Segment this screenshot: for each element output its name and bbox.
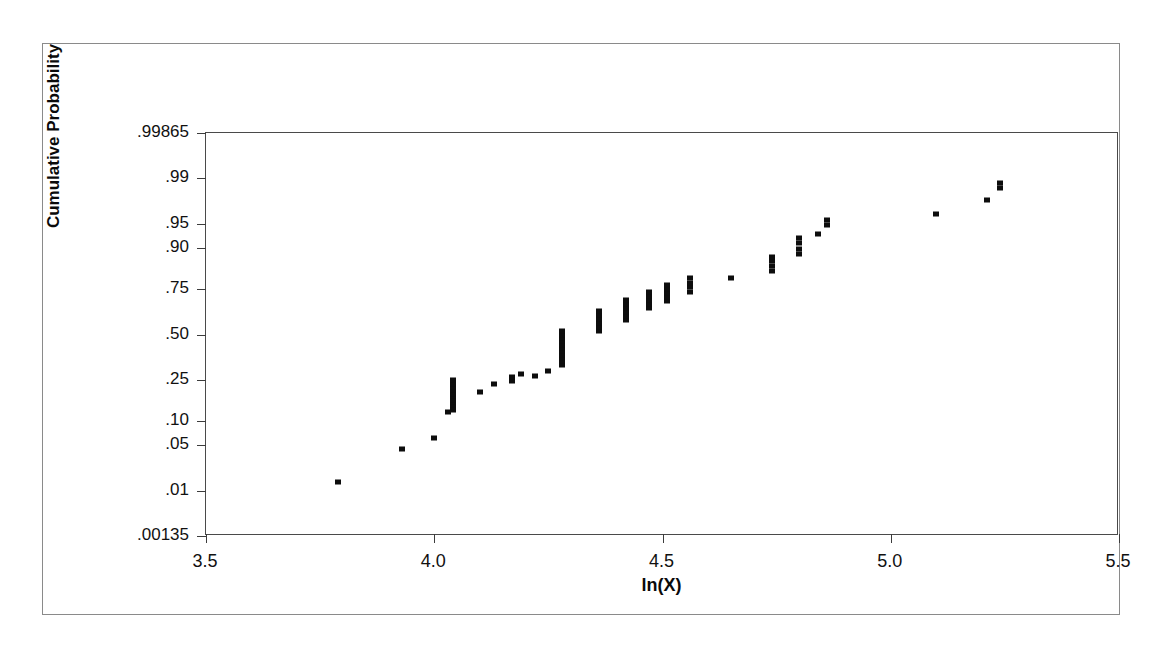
x-axis-tick: [1119, 534, 1120, 543]
scatter-point: [518, 372, 524, 377]
y-axis-tick: [197, 421, 206, 422]
x-axis-tick-label: 3.5: [192, 551, 217, 572]
scatter-point: [687, 276, 693, 281]
y-axis-tick-label: .25: [0, 369, 189, 389]
scatter-point: [933, 211, 939, 216]
scatter-point: [769, 268, 775, 273]
x-axis-tick-label: 5.0: [877, 551, 902, 572]
x-axis-tick: [891, 534, 892, 543]
y-axis-tick: [197, 335, 206, 336]
scatter-point: [532, 374, 538, 379]
scatter-point: [646, 289, 652, 294]
scatter-point: [545, 369, 551, 374]
x-axis-tick: [206, 534, 207, 543]
scatter-point: [815, 231, 821, 236]
scatter-point: [687, 280, 693, 285]
scatter-point: [997, 181, 1003, 186]
scatter-point: [796, 241, 802, 246]
scatter-point: [399, 446, 405, 451]
x-axis-tick-label: 4.5: [649, 551, 674, 572]
scatter-point: [728, 276, 734, 281]
scatter-point: [431, 435, 437, 440]
y-axis-tick: [197, 491, 206, 492]
scatter-point: [491, 382, 497, 387]
plot-frame: [205, 132, 1118, 535]
y-axis-tick-label: .00135: [0, 525, 189, 545]
scatter-point: [687, 285, 693, 290]
x-axis-tick-label: 4.0: [421, 551, 446, 572]
y-axis-tick-label: .50: [0, 324, 189, 344]
y-axis-tick: [197, 536, 206, 537]
scatter-points-layer: [206, 133, 1117, 534]
x-axis-tick: [663, 534, 664, 543]
scatter-point: [509, 375, 515, 380]
y-axis-tick-label: .10: [0, 410, 189, 430]
x-axis-tick: [434, 534, 435, 543]
scatter-point: [623, 297, 629, 302]
scatter-point: [769, 254, 775, 259]
scatter-point: [796, 246, 802, 251]
scatter-point: [596, 308, 602, 313]
y-axis-tick: [197, 133, 206, 134]
scatter-point: [769, 263, 775, 268]
scatter-point: [335, 479, 341, 484]
scatter-point: [824, 223, 830, 228]
scatter-point: [796, 251, 802, 256]
y-axis-tick-label: .05: [0, 434, 189, 454]
y-axis-tick: [197, 289, 206, 290]
scatter-point: [769, 259, 775, 264]
scatter-point: [477, 389, 483, 394]
y-axis-tick-label: .01: [0, 480, 189, 500]
y-axis-tick-label: .90: [0, 237, 189, 257]
scatter-point: [997, 186, 1003, 191]
y-axis-tick-label: .99: [0, 167, 189, 187]
y-axis-tick: [197, 248, 206, 249]
scatter-point: [664, 282, 670, 287]
scatter-point: [824, 217, 830, 222]
y-axis-tick: [197, 380, 206, 381]
scatter-point: [984, 198, 990, 203]
y-axis-tick: [197, 445, 206, 446]
y-axis-tick-label: .95: [0, 213, 189, 233]
y-axis-tick-label: .99865: [0, 122, 189, 142]
figure-canvas: Cumulative Probability .99865.99.95.90.7…: [0, 0, 1160, 653]
scatter-point: [450, 378, 456, 383]
scatter-point: [559, 329, 565, 334]
scatter-point: [796, 235, 802, 240]
y-axis-tick: [197, 224, 206, 225]
scatter-point: [687, 290, 693, 295]
y-axis-tick-label: .75: [0, 278, 189, 298]
x-axis-tick-label: 5.5: [1105, 551, 1130, 572]
x-axis-title: ln(X): [205, 575, 1118, 596]
y-axis-tick: [197, 178, 206, 179]
